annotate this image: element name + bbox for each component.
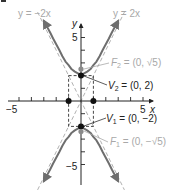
point-1-0: [90, 98, 96, 104]
y-tick-label-neg5: −5: [66, 161, 78, 172]
focus-f2-point: [78, 66, 83, 71]
x-tick-label-neg5: −5: [6, 104, 18, 115]
hyperbola-chart: y = −2x y = 2x y x 5 −5 −5 5 F2 = (0, √5…: [0, 0, 177, 192]
y-tick-label-5: 5: [72, 32, 78, 43]
asymptote-neg-label: y = −2x: [18, 8, 51, 19]
v1-label: V1 = (0, −2): [106, 113, 157, 125]
vertex-v1-point: [78, 123, 84, 129]
focus-f1-point: [78, 129, 83, 134]
asymptote-pos-label: y = 2x: [113, 8, 140, 19]
point-neg1-0: [66, 98, 72, 104]
f1-label: F1 = (0, −√5): [110, 136, 166, 148]
axes: [8, 24, 153, 185]
vertex-v2-point: [78, 73, 84, 79]
cropped-label-fragment: [1, 0, 6, 2]
y-axis-label: y: [71, 18, 78, 29]
v2-label: V2 = (0, 2): [108, 80, 153, 92]
f2-label: F2 = (0, √5): [111, 57, 161, 69]
